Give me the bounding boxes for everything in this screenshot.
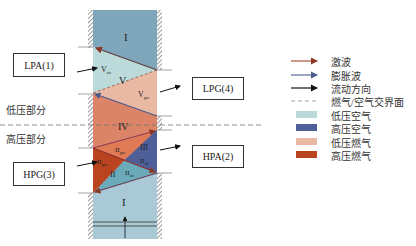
flow-arrow-lpg-out: [160, 86, 180, 92]
right-wall: [157, 173, 162, 239]
port-box-hpa: HPA(2): [192, 145, 244, 168]
legend-swatch-high-gas: [296, 151, 317, 158]
region-label-I: I: [124, 31, 128, 43]
region-label-III: III: [140, 143, 148, 152]
legend-label-high-air: 高压空气: [331, 121, 371, 136]
legend-swatch-low-air: [296, 111, 317, 118]
left-wall: [88, 193, 93, 239]
low-pressure-label: 低压部分: [6, 102, 46, 117]
right-wall: [157, 116, 162, 130]
legend-swatch-high-air: [296, 124, 317, 131]
port-box-lpa: LPA(1): [13, 53, 65, 77]
region-label-V: V: [119, 75, 127, 86]
legend-label-interface: 燃气/空气交界面: [331, 94, 404, 109]
flow-arrow-hpa-out: [160, 146, 180, 150]
region-label-I-bottom: I: [122, 196, 126, 208]
port-box-lpg: LPG(4): [192, 77, 244, 100]
legend-label-shock: 激波: [331, 54, 351, 69]
left-wall: [88, 10, 93, 48]
right-wall: [157, 10, 162, 70]
port-box-hpg: HPG(3): [13, 162, 65, 186]
high-pressure-label: 高压部分: [6, 131, 46, 146]
region-label-II: II: [110, 170, 116, 179]
legend-swatch-low-gas: [296, 138, 317, 145]
left-wall: [88, 95, 93, 148]
region-label-IV: IV: [118, 121, 129, 132]
legend-label-high-gas: 高压燃气: [331, 148, 371, 163]
